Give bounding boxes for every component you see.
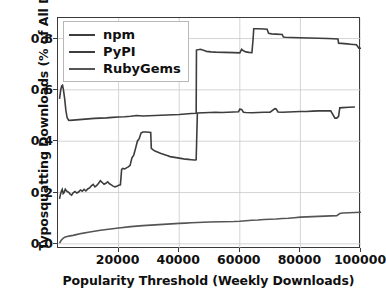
x-tick-mark	[360, 248, 361, 252]
legend-line-icon	[69, 34, 95, 36]
legend-item-pypi: PyPI	[69, 43, 181, 60]
y-tick-label: 0.0	[19, 235, 53, 250]
y-tick-label: 0.4	[19, 133, 53, 148]
x-tick-mark	[299, 248, 300, 252]
x-tick-label: 100000	[334, 252, 386, 267]
legend-item-npm: npm	[69, 26, 181, 43]
legend-line-icon	[69, 51, 95, 53]
legend-line-icon	[69, 68, 95, 70]
x-tick-label: 20000	[96, 252, 140, 267]
y-tick-label: 0.2	[19, 184, 53, 199]
chart-legend: npmPyPIRubyGems	[63, 21, 189, 82]
legend-label: PyPI	[103, 45, 136, 58]
y-tick-label: 0.8	[19, 30, 53, 45]
x-tick-mark	[178, 248, 179, 252]
series-line-rubygems	[60, 212, 361, 243]
y-axis-tick-labels: 0.00.20.40.60.8	[0, 0, 53, 299]
y-tick-label: 0.6	[19, 81, 53, 96]
legend-item-rubygems: RubyGems	[69, 60, 181, 77]
x-axis-label: Popularity Threshold (Weekly Downloads)	[57, 273, 360, 288]
x-tick-label: 80000	[278, 252, 322, 267]
legend-label: RubyGems	[103, 62, 181, 75]
x-tick-label: 60000	[217, 252, 261, 267]
x-tick-mark	[118, 248, 119, 252]
legend-label: npm	[103, 28, 135, 41]
series-line-pypi	[60, 107, 355, 199]
x-tick-label: 40000	[156, 252, 200, 267]
x-tick-mark	[239, 248, 240, 252]
